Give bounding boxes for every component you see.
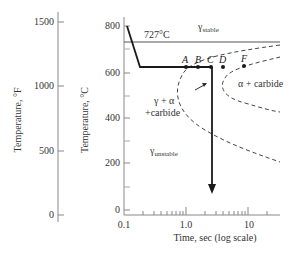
ttt-diagram: 1500 1000 500 0 Temperature, °F 800 600 … [0, 0, 308, 258]
plus-carbide-label: +carbide [145, 107, 181, 118]
f-tick-1500: 1500 [34, 16, 54, 27]
label-c: C [207, 54, 214, 65]
fahrenheit-axis-title: Temperature, °F [12, 87, 23, 152]
fahrenheit-axis: 1500 1000 500 0 Temperature, °F [12, 12, 64, 222]
c-tick-0: 0 [115, 204, 120, 215]
gamma-stable-label: γstable [197, 21, 219, 34]
gamma-unstable-label: γunstable [149, 145, 178, 158]
label-b: B [195, 54, 201, 65]
transformation-curves [177, 45, 280, 162]
label-f: F [240, 53, 248, 64]
start-curve [177, 45, 280, 162]
f-tick-1000: 1000 [34, 80, 54, 91]
time-tick-10: 10 [244, 219, 254, 230]
label-a: A [181, 54, 189, 65]
celsius-axis: 800 600 400 200 0 Temperature, °C [79, 17, 130, 215]
arrow-down-icon [208, 184, 216, 194]
point-b [196, 65, 200, 69]
region-pointer-arrowhead-icon [202, 83, 207, 87]
c-tick-400: 400 [105, 112, 120, 123]
time-axis: 0.1 1.0 10 Time, sec (log scale) [118, 207, 280, 244]
f-tick-500: 500 [39, 145, 54, 156]
c-tick-800: 800 [105, 20, 120, 31]
time-axis-title: Time, sec (log scale) [174, 232, 257, 244]
point-a [184, 65, 188, 69]
point-d [221, 65, 225, 69]
cooling-path [127, 26, 212, 186]
label-d: D [218, 54, 227, 65]
f-tick-0: 0 [49, 209, 54, 220]
time-tick-0.1: 0.1 [118, 219, 131, 230]
point-f [242, 64, 246, 68]
celsius-axis-title: Temperature, °C [79, 87, 90, 153]
c-tick-200: 200 [105, 157, 120, 168]
alpha-carbide-label: α + carbide [238, 78, 284, 89]
point-c [209, 65, 213, 69]
gamma-alpha-label: γ + α [153, 95, 175, 106]
time-tick-1.0: 1.0 [180, 219, 193, 230]
eutectoid-label: 727°C [144, 29, 170, 40]
c-tick-600: 600 [105, 67, 120, 78]
